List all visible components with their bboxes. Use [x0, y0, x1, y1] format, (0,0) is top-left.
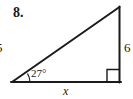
base-side-label: x	[63, 85, 68, 97]
right-angle-square-icon	[107, 70, 120, 83]
geometry-figure-container: 8. 5 27° 6 x	[0, 0, 133, 99]
problem-number-label: 8.	[13, 6, 24, 20]
angle-measure-label: 27°	[31, 68, 46, 79]
partial-left-edge-label: 5	[0, 41, 3, 54]
vertical-side-label: 6	[124, 41, 131, 54]
angle-arc-icon	[28, 74, 31, 83]
hypotenuse-line	[12, 7, 120, 82]
